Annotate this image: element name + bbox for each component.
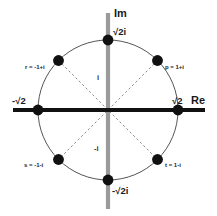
point-marker-right xyxy=(173,105,184,116)
unit-negative-i-label: -i xyxy=(94,145,99,153)
point-marker-s xyxy=(53,154,64,165)
point-label-p: p = 1+i xyxy=(165,64,184,70)
real-right-value-label: √2 xyxy=(172,96,183,106)
real-axis-label: Re xyxy=(191,95,205,106)
point-marker-bottom xyxy=(103,175,114,186)
point-label-r: r = -1+i xyxy=(25,64,45,70)
diagram-canvas xyxy=(0,0,217,216)
point-marker-top xyxy=(103,35,114,46)
complex-plane-figure: Im √2i -√2i √2 Re -√2 i -i p = 1+i r = -… xyxy=(0,0,217,216)
real-left-value-label: -√2 xyxy=(12,96,26,106)
point-marker-t xyxy=(152,154,163,165)
point-marker-r xyxy=(53,55,64,66)
point-label-s: s = -1-i xyxy=(24,162,43,168)
imaginary-top-value-label: √2i xyxy=(113,27,126,37)
unit-i-label: i xyxy=(97,74,99,82)
point-label-t: t = 1-i xyxy=(165,162,181,168)
imaginary-axis-label: Im xyxy=(114,8,127,19)
point-marker-left xyxy=(33,105,44,116)
imaginary-bottom-value-label: -√2i xyxy=(112,186,128,196)
point-marker-p xyxy=(152,55,163,66)
